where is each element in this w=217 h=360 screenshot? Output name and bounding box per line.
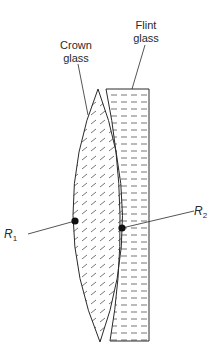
- crown-label-line1: Crown: [60, 39, 92, 51]
- r2-label-sub: 2: [203, 211, 208, 220]
- achromatic-doublet-diagram: Crown glass Flint glass R1 R2: [0, 0, 217, 360]
- flint-leader-line: [132, 45, 145, 89]
- r1-surface-dot: [71, 217, 78, 224]
- r2-surface-dot: [118, 224, 125, 231]
- r1-label-sub: 1: [13, 234, 18, 243]
- flint-label-line1: Flint: [136, 19, 157, 31]
- r2-label: R2: [194, 204, 208, 220]
- r1-leader-line: [28, 221, 75, 234]
- r1-label-main: R: [4, 227, 13, 241]
- r2-label-main: R: [194, 204, 203, 218]
- r1-label: R1: [4, 227, 18, 243]
- crown-label-line2: glass: [63, 52, 89, 64]
- crown-leader-line: [78, 64, 88, 115]
- flint-label-line2: glass: [133, 32, 159, 44]
